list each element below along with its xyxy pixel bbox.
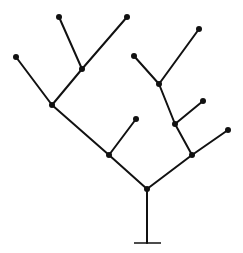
leaf-node <box>124 14 130 20</box>
tree-edge <box>147 155 192 189</box>
tree-edge <box>59 17 82 69</box>
internal-node <box>79 66 85 72</box>
tree-edge <box>52 105 109 155</box>
internal-node <box>189 152 195 158</box>
internal-node <box>49 102 55 108</box>
tree-edge <box>175 101 203 124</box>
tree-edge <box>52 69 82 105</box>
tree-edge <box>16 57 52 105</box>
leaf-node <box>200 98 206 104</box>
leaf-node <box>13 54 19 60</box>
tree-trunk <box>134 189 161 243</box>
tree-edge <box>175 124 192 155</box>
internal-node <box>172 121 178 127</box>
leaf-node <box>133 116 139 122</box>
tree-edge <box>109 119 136 155</box>
internal-node <box>106 152 112 158</box>
leaf-node <box>225 127 231 133</box>
leaf-node <box>56 14 62 20</box>
internal-node <box>144 186 150 192</box>
leaf-node <box>196 26 202 32</box>
tree-diagram <box>0 0 243 253</box>
tree-edge <box>159 29 199 84</box>
tree-edge <box>134 56 159 84</box>
tree-edges <box>16 17 228 189</box>
tree-edge <box>159 84 175 124</box>
internal-node <box>156 81 162 87</box>
tree-edge <box>192 130 228 155</box>
tree-edge <box>82 17 127 69</box>
tree-edge <box>109 155 147 189</box>
leaf-node <box>131 53 137 59</box>
